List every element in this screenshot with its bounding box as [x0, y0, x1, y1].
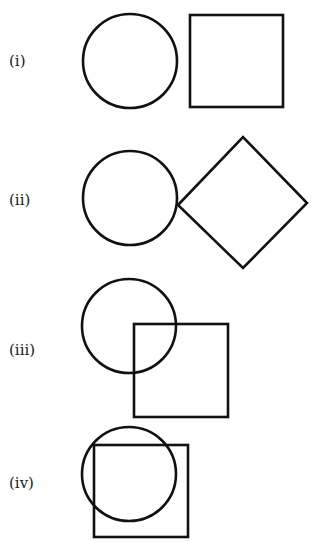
circle-shape [82, 279, 176, 373]
square-shape [190, 15, 283, 107]
diagram-canvas: (i) (ii) (iii) (iv) [0, 0, 316, 542]
figure-i [83, 14, 283, 108]
figure-iv [82, 427, 188, 537]
diamond-shape [178, 137, 307, 268]
square-shape [134, 324, 228, 417]
shapes-drawing [0, 0, 316, 542]
circle-shape [82, 427, 176, 521]
figure-ii [83, 137, 307, 268]
circle-shape [83, 14, 177, 108]
circle-shape [83, 151, 177, 245]
figure-iii [82, 279, 228, 417]
